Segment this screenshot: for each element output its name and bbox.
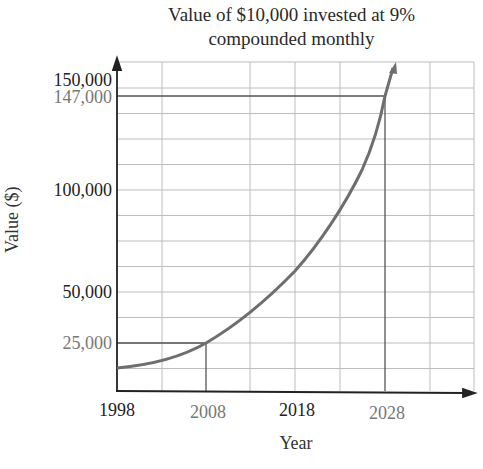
curve-arrow-icon [389,62,397,74]
x-axis-arrow-icon [463,389,475,397]
y-tick-50000: 50,000 [63,283,113,301]
y-tick-147000: 147,000 [54,88,113,106]
y-axis-arrow-icon [113,58,121,70]
x-tick-2008: 2008 [190,403,226,421]
reference-lines [117,96,385,391]
x-tick-2018: 2018 [279,401,315,419]
axes [113,58,475,397]
x-tick-1998: 1998 [99,401,135,419]
x-tick-2028: 2028 [369,404,405,422]
x-axis-label: Year [279,433,312,454]
y-axis-label: Value ($) [2,187,23,253]
x-axis [116,391,466,393]
y-tick-25000: 25,000 [63,334,113,352]
y-tick-100000: 100,000 [54,181,113,199]
